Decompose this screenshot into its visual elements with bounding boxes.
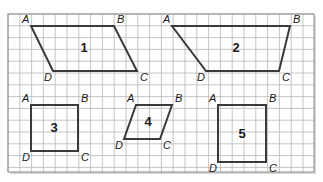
vertex-label-a: A — [208, 92, 216, 104]
vertex-label-a: A — [162, 13, 170, 25]
vertex-label-c: C — [81, 151, 89, 163]
vertex-label-a: A — [21, 92, 29, 104]
shape-5-rectangle: ABCD5 — [208, 92, 277, 174]
quadrilaterals-diagram: ABCD1ABCD2ABCD3ABCD4ABCD5 — [0, 0, 323, 182]
shape-number-label: 1 — [80, 40, 87, 55]
vertex-label-d: D — [44, 71, 52, 83]
shape-number-label: 4 — [144, 114, 152, 129]
vertex-label-b: B — [81, 92, 88, 104]
vertex-label-b: B — [293, 13, 300, 25]
vertex-label-d: D — [209, 162, 217, 174]
vertex-label-b: B — [175, 92, 182, 104]
vertex-label-b: B — [269, 92, 276, 104]
vertex-label-a: A — [126, 92, 134, 104]
shape-number-label: 5 — [238, 126, 245, 141]
vertex-label-d: D — [22, 151, 30, 163]
vertex-label-c: C — [163, 139, 171, 151]
vertex-label-c: C — [140, 71, 148, 83]
vertex-label-d: D — [197, 71, 205, 83]
shape-number-label: 3 — [50, 120, 57, 135]
vertex-label-a: A — [21, 13, 29, 25]
shape-number-label: 2 — [232, 40, 239, 55]
vertex-label-c: C — [269, 162, 277, 174]
vertex-label-c: C — [282, 71, 290, 83]
vertex-label-b: B — [117, 13, 124, 25]
vertex-label-d: D — [115, 139, 123, 151]
